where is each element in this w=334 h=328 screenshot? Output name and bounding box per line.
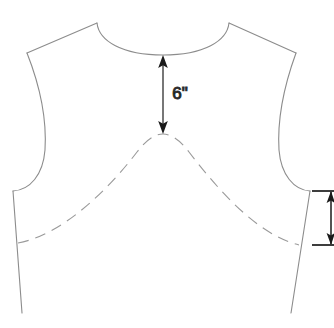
neckline-curve bbox=[97, 23, 229, 55]
bodice-front-outline bbox=[13, 23, 310, 313]
dashed-arch-curve bbox=[18, 134, 299, 245]
right-shoulder-seam bbox=[229, 23, 296, 53]
side-seam-dimension bbox=[312, 191, 334, 245]
neckline-drop-dimension: 6" bbox=[158, 55, 188, 134]
pattern-diagram-canvas: 6" bbox=[0, 0, 334, 328]
right-armhole-curve bbox=[279, 53, 310, 191]
original-neckline-guide bbox=[18, 134, 299, 245]
right-side-seam bbox=[291, 191, 310, 313]
left-side-seam bbox=[13, 191, 22, 313]
left-armhole-curve bbox=[13, 53, 45, 191]
neckline-drop-label: 6" bbox=[172, 84, 188, 103]
bodice-pattern-svg: 6" bbox=[0, 0, 334, 328]
left-shoulder-seam bbox=[27, 23, 97, 53]
